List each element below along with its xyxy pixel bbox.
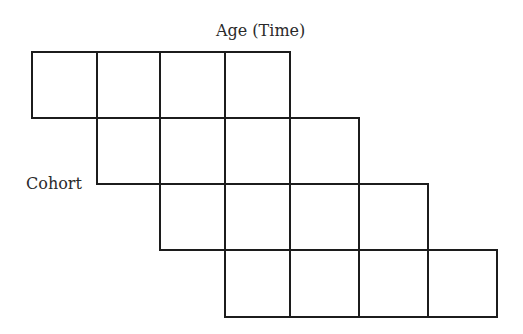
grid-cell [224,183,291,251]
grid-cell [96,117,161,185]
grid-cell [159,117,226,185]
grid-cell [358,249,429,318]
grid-cell [159,51,226,119]
cohort-age-diagram: Age (Time) Cohort [0,0,523,334]
cohort-axis-label: Cohort [26,176,82,192]
grid-cell [31,51,98,119]
grid-cell [358,183,429,251]
grid-cell [224,117,291,185]
grid-cell [427,249,498,318]
grid-cell [289,117,360,185]
grid-cell [224,249,291,318]
grid-cell [224,51,291,119]
grid-cell [159,183,226,251]
grid-cell [96,51,161,119]
grid-cell [289,249,360,318]
grid-cell [289,183,360,251]
age-time-axis-label: Age (Time) [216,23,305,39]
